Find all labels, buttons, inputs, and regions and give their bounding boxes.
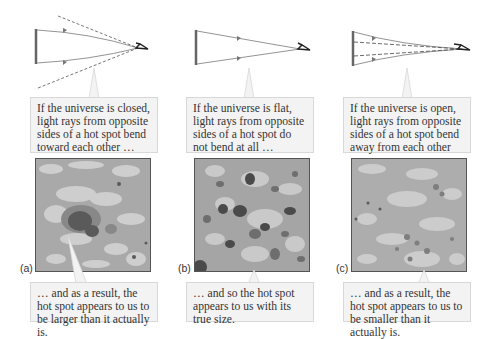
panel-closed: If the universe is closed, light rays fr… (0, 0, 160, 319)
callout-bottom-closed: … and as a result, the hot spot appears … (30, 282, 158, 322)
panel-label-b: (b) (178, 262, 191, 274)
ray-diagram-closed (0, 0, 160, 95)
cmb-map-closed (35, 158, 151, 272)
cmb-map-flat (194, 158, 310, 272)
callout-top-open: If the universe is open, light rays from… (343, 97, 471, 153)
eye-icon (136, 43, 148, 49)
ray-diagram-flat (160, 0, 320, 95)
callout-pointer (68, 236, 88, 284)
callout-bottom-open: … and as a result, the hot spot appears … (343, 282, 471, 322)
panel-flat: If the universe is flat, light rays from… (160, 0, 320, 319)
callout-pointer (399, 68, 415, 99)
panel-label-c: (c) (336, 262, 348, 274)
callout-pointer (241, 68, 257, 99)
callout-top-flat: If the universe is flat, light rays from… (186, 97, 314, 153)
callout-top-closed: If the universe is closed, light rays fr… (30, 97, 158, 153)
callout-pointer (86, 68, 102, 99)
callout-bottom-flat: … and so the hot spot appears to us with… (186, 282, 314, 322)
panel-label-a: (a) (20, 262, 33, 274)
panel-open: If the universe is open, light rays from… (320, 0, 480, 319)
eye-icon (298, 43, 310, 50)
cmb-map-open (351, 158, 467, 272)
